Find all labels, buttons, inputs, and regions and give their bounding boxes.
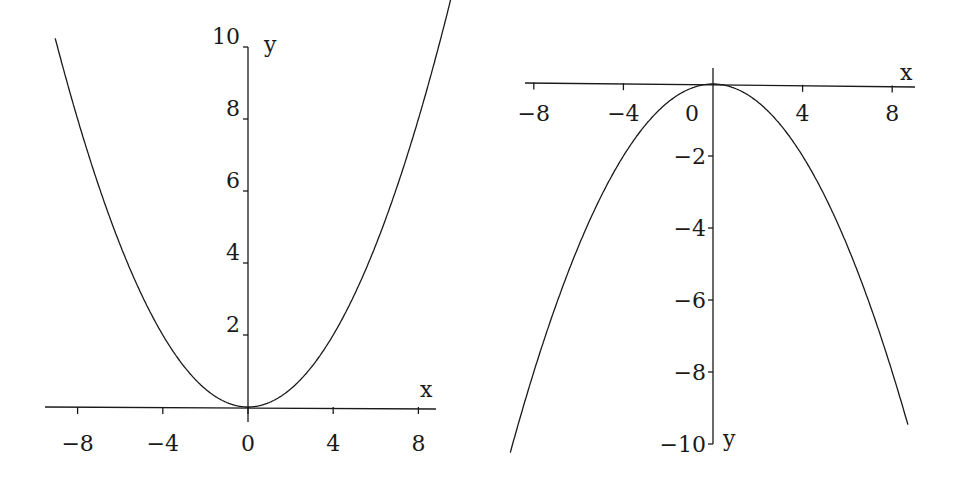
left-y-axis-label: y	[263, 32, 277, 57]
right-chart-down-parabola: −8−4048 −2−4−6−8−10 x y	[510, 60, 915, 457]
right-x-tick-label: 4	[796, 101, 810, 126]
left-x-tick-label: −8	[61, 431, 93, 456]
right-x-tick-label: 0	[685, 101, 699, 126]
right-y-axis-label: y	[722, 426, 736, 451]
right-x-tick-label: −4	[607, 101, 639, 126]
left-chart-up-parabola: −8−4048 246810 x y	[45, 0, 453, 456]
left-x-tick-label: 0	[241, 431, 255, 456]
left-parabola-curve	[55, 0, 452, 407]
left-x-tick-label: 8	[411, 431, 425, 456]
right-y-tick-label: −8	[674, 360, 706, 385]
left-x-ticks: −8−4048	[61, 407, 425, 456]
left-y-tick-label: 2	[226, 312, 240, 337]
figure: −8−4048 246810 x y −8−4048 −2−4−6−8−10 x…	[0, 0, 960, 484]
right-y-ticks: −2−4−6−8−10	[660, 144, 713, 457]
right-y-tick-label: −10	[660, 432, 706, 457]
left-x-tick-label: 4	[326, 431, 340, 456]
left-x-tick-label: −4	[147, 431, 179, 456]
right-y-tick-label: −4	[674, 216, 706, 241]
right-y-tick-label: −2	[674, 144, 706, 169]
right-parabola-curve	[510, 84, 908, 453]
left-y-tick-label: 10	[212, 24, 240, 49]
right-x-tick-label: −8	[518, 101, 550, 126]
left-y-tick-label: 6	[226, 168, 240, 193]
right-y-tick-label: −6	[674, 288, 706, 313]
left-y-tick-label: 4	[226, 240, 240, 265]
right-x-ticks: −8−4048	[518, 82, 900, 126]
left-y-ticks: 246810	[212, 24, 248, 337]
right-x-tick-label: 8	[885, 101, 899, 126]
left-x-axis-label: x	[420, 377, 433, 402]
right-x-axis-label: x	[900, 60, 913, 85]
left-y-tick-label: 8	[226, 96, 240, 121]
left-x-axis	[45, 407, 436, 409]
